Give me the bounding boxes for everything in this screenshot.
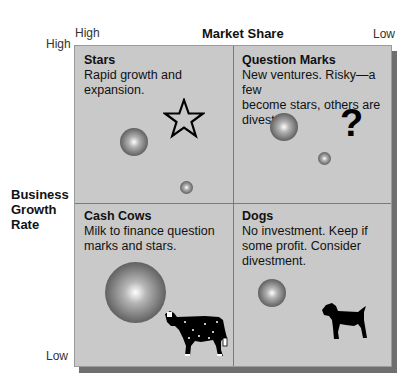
sphere-small bbox=[318, 152, 331, 165]
y-axis-title-line: Business bbox=[11, 187, 69, 202]
y-axis-title-line: Rate bbox=[11, 217, 69, 232]
y-axis-low-label: Low bbox=[46, 349, 68, 363]
x-axis-title: Market Share bbox=[202, 26, 284, 41]
dog-icon bbox=[320, 302, 368, 342]
quadrant-title: Question Marks bbox=[242, 53, 336, 67]
sphere-extra-large bbox=[105, 262, 166, 323]
horizontal-divider bbox=[75, 203, 391, 204]
y-axis-title-line: Growth bbox=[11, 202, 69, 217]
quadrant-title: Dogs bbox=[242, 209, 273, 223]
quadrant-title: Cash Cows bbox=[84, 209, 151, 223]
x-axis-high-label: High bbox=[75, 26, 100, 40]
star-icon bbox=[163, 98, 205, 140]
sphere-large bbox=[258, 279, 286, 307]
cow-icon bbox=[161, 308, 231, 360]
y-axis-title: Business Growth Rate bbox=[11, 187, 69, 232]
quadrant-title: Stars bbox=[84, 53, 115, 67]
x-axis-low-label: Low bbox=[373, 27, 395, 41]
quadrant-description: Milk to finance question marks and stars… bbox=[84, 224, 215, 254]
bcg-matrix: Stars Rapid growth and expansion. Questi… bbox=[74, 45, 392, 367]
quadrant-description: No investment. Keep if some profit. Cons… bbox=[242, 224, 368, 269]
quadrant-description: New ventures. Risky—a few become stars, … bbox=[242, 68, 391, 128]
sphere-large bbox=[270, 113, 298, 141]
question-mark-icon: ? bbox=[340, 102, 363, 145]
vertical-divider bbox=[233, 46, 234, 366]
sphere-small bbox=[180, 181, 193, 194]
sphere-large bbox=[120, 128, 148, 156]
quadrant-description: Rapid growth and expansion. bbox=[84, 68, 182, 98]
y-axis-high-label: High bbox=[46, 37, 71, 51]
